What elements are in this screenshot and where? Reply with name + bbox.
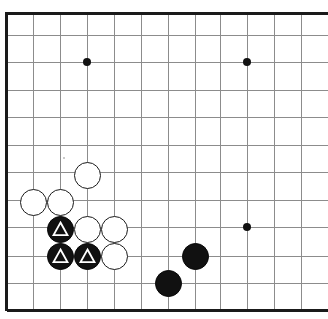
white-stone[interactable]	[47, 189, 74, 216]
triangle-marker-icon	[75, 244, 100, 269]
black-stone[interactable]	[74, 243, 101, 270]
black-stone[interactable]	[47, 243, 74, 270]
go-board-diagram	[0, 0, 328, 319]
black-stone[interactable]	[182, 243, 209, 270]
white-stone[interactable]	[74, 216, 101, 243]
white-stone[interactable]	[101, 243, 128, 270]
black-stone[interactable]	[155, 270, 182, 297]
triangle-marker-shape	[53, 222, 67, 235]
triangle-marker-icon	[48, 244, 73, 269]
white-stone[interactable]	[20, 189, 47, 216]
triangle-marker-shape	[80, 249, 94, 261]
white-stone[interactable]	[74, 162, 101, 189]
white-stone[interactable]	[101, 216, 128, 243]
triangle-marker-icon	[48, 217, 73, 242]
stone-layer	[0, 0, 328, 319]
black-stone[interactable]	[47, 216, 74, 243]
triangle-marker-shape	[53, 249, 67, 261]
